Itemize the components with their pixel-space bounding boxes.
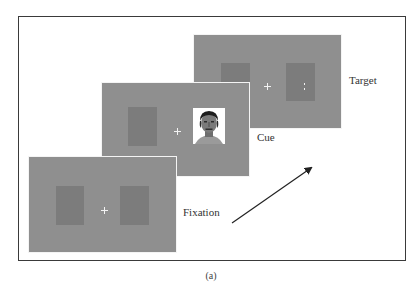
- cue-label: Cue: [257, 132, 275, 143]
- target-right-placeholder: [286, 63, 315, 101]
- fixation-right-placeholder: [120, 186, 149, 225]
- face-cue-image: [193, 108, 225, 144]
- fixation-label: Fixation: [183, 207, 220, 218]
- target-dot-icon: [304, 88, 305, 90]
- fixation-panel: [29, 157, 176, 252]
- figure-caption: (a): [201, 270, 221, 281]
- fixation-cross-icon: [264, 83, 271, 90]
- face-photo-icon: [193, 108, 225, 144]
- target-dot-icon: [304, 83, 305, 85]
- fixation-left-placeholder: [56, 186, 84, 225]
- cue-left-placeholder: [128, 107, 157, 146]
- fixation-cross-icon: [101, 207, 108, 214]
- fixation-cross-icon: [174, 128, 181, 135]
- target-label: Target: [349, 75, 377, 86]
